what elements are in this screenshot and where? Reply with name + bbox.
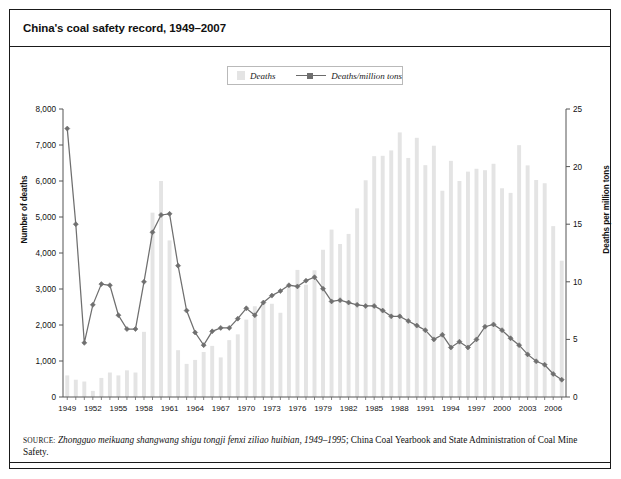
line-marker-1963 [184,308,189,313]
line-marker-1951 [82,340,87,345]
bar-1968 [227,340,231,397]
bar-1978 [313,270,317,397]
y-tick-label-right: 5 [573,335,578,344]
bar-1980 [330,230,334,397]
bar-1969 [236,334,240,397]
bar-2002 [517,145,521,397]
bar-1990 [415,138,419,397]
bar-1965 [202,352,206,397]
source-keyword: SOURCE: [23,436,56,445]
bar-1985 [372,156,376,397]
chart-canvas: 01,0002,0003,0004,0005,0006,0007,0008,00… [10,10,612,470]
x-tick-label-1979: 1979 [314,404,332,413]
bar-2001 [509,193,513,397]
bar-1966 [210,346,214,397]
bar-1995 [457,181,461,397]
bar-1986 [381,156,385,397]
source-note: SOURCE: Zhongguo meikuang shangwang shig… [23,434,599,459]
line-marker-1952 [90,302,95,307]
line-marker-1961 [167,211,172,216]
bar-1970 [244,320,248,397]
bar-1997 [475,169,479,397]
bar-2004 [534,180,538,397]
bar-2003 [526,165,530,397]
bar-1952 [91,391,95,397]
line-marker-1967 [218,325,223,330]
x-tick-label-1991: 1991 [416,404,434,413]
x-tick-label-1976: 1976 [289,404,307,413]
y-tick-label-left: 5,000 [36,213,57,222]
bar-1967 [219,357,223,397]
bar-1991 [423,165,427,397]
bar-1998 [483,170,487,397]
bar-2000 [500,188,504,397]
bar-1984 [364,180,368,397]
x-tick-label-1985: 1985 [365,404,383,413]
figure-frame: China's coal safety record, 1949–2007 De… [9,9,611,469]
bar-1973 [270,304,274,397]
y-tick-label-right: 0 [573,393,578,402]
bar-1957 [134,373,138,397]
bar-1950 [74,380,78,397]
bar-1988 [398,132,402,397]
bar-1954 [108,373,112,397]
line-marker-1954 [107,283,112,288]
bar-1992 [432,146,436,397]
bar-1961 [168,240,172,397]
x-tick-label-1970: 1970 [237,404,255,413]
bar-1962 [176,350,180,397]
bar-1987 [389,150,393,397]
y-tick-label-right: 15 [573,220,583,229]
line-marker-1962 [176,263,181,268]
bar-1956 [125,370,129,397]
bar-series-deaths [65,132,563,397]
x-tick-label-2000: 2000 [493,404,511,413]
bar-1951 [82,382,86,397]
bar-1993 [440,191,444,397]
x-tick-label-1952: 1952 [84,404,102,413]
x-tick-label-1982: 1982 [340,404,358,413]
y-tick-label-left: 0 [51,393,56,402]
bar-1949 [65,375,69,397]
y-tick-label-left: 4,000 [36,249,57,258]
source-italic-title: Zhongguo meikuang shangwang shigu tongji… [58,435,346,445]
x-tick-label-1994: 1994 [442,404,460,413]
bar-1953 [99,378,103,397]
y-tick-label-left: 8,000 [36,105,57,114]
bar-1989 [406,158,410,397]
bar-1963 [185,364,189,397]
y-tick-label-left: 3,000 [36,285,57,294]
x-tick-label-1958: 1958 [135,404,153,413]
x-tick-label-1955: 1955 [110,404,128,413]
y-tick-label-left: 7,000 [36,141,57,150]
x-tick-label-1997: 1997 [468,404,486,413]
line-marker-1949 [65,126,70,131]
x-tick-label-1967: 1967 [212,404,230,413]
bar-1972 [261,303,265,397]
bar-1971 [253,306,257,397]
line-marker-1957 [133,327,138,332]
bar-1996 [466,172,470,397]
y-tick-label-right: 25 [573,105,583,114]
x-tick-label-1964: 1964 [186,404,204,413]
line-marker-1953 [99,282,104,287]
x-tick-label-1988: 1988 [391,404,409,413]
source-divider [10,462,610,463]
y-tick-label-left: 1,000 [36,357,57,366]
bar-2007 [560,261,564,397]
x-tick-label-2003: 2003 [519,404,537,413]
bar-1955 [116,375,120,397]
bar-1975 [287,286,291,397]
bar-1979 [321,250,325,397]
y-tick-label-left: 6,000 [36,177,57,186]
line-marker-1958 [141,279,146,284]
bar-1958 [142,332,146,397]
y-tick-label-right: 10 [573,278,583,287]
x-tick-label-2006: 2006 [544,404,562,413]
bar-1999 [492,164,496,397]
bar-1994 [449,161,453,397]
bar-1964 [193,360,197,397]
line-marker-1950 [73,222,78,227]
y-tick-label-left: 2,000 [36,321,57,330]
bar-1974 [278,313,282,397]
